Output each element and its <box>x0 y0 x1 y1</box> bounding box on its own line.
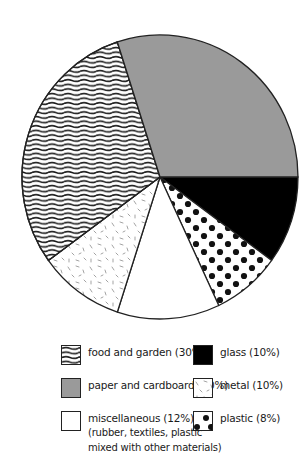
legend-label: miscellaneous (12%) <box>88 412 194 424</box>
white-swatch-icon <box>61 411 81 431</box>
chart-legend: food and garden (30%) paper and cardboar… <box>0 0 302 473</box>
gray-swatch-icon <box>61 378 81 398</box>
legend-label: metal (10%) <box>220 378 283 392</box>
speckled-swatch-icon <box>193 378 213 398</box>
legend-label: plastic (8%) <box>220 411 280 425</box>
black-swatch-icon <box>193 345 213 365</box>
legend-label: food and garden (30%) <box>88 345 205 359</box>
legend-item-food-and-garden: food and garden (30%) <box>61 345 205 365</box>
legend-item-plastic: plastic (8%) <box>193 411 280 431</box>
legend-note: mixed with other materials) <box>88 440 221 455</box>
legend-label: glass (10%) <box>220 345 280 359</box>
legend-item-glass: glass (10%) <box>193 345 280 365</box>
wavy-lines-swatch-icon <box>61 345 81 365</box>
legend-item-metal: metal (10%) <box>193 378 283 398</box>
dotted-swatch-icon <box>193 411 213 431</box>
